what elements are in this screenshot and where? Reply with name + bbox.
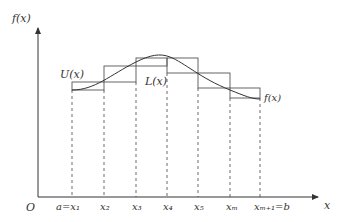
origin-label: O [26,201,35,214]
curve-label: f(x) [264,92,281,103]
tick-label: a=x₁ [56,201,80,212]
tick-label: x₂ [100,201,110,212]
diagram-canvas [0,0,347,222]
partition-dashes [72,73,260,197]
x-axis-label: x [324,199,330,212]
lower-sum-label: L(x) [145,75,167,88]
upper-sum-label: U(x) [60,68,84,81]
tick-label: x₄ [163,201,173,212]
tick-label: x₃ [132,201,142,212]
tick-label: xₘ₊₁=b [254,201,290,212]
y-axis-label: f(x) [12,12,31,25]
tick-label: x₅ [194,201,204,212]
tick-label: xₘ [226,201,238,212]
